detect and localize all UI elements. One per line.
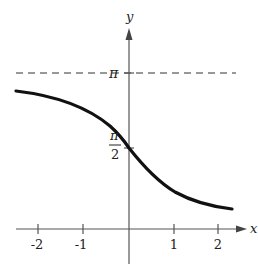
x-tick-labels: -2 -1 1 2	[31, 237, 222, 252]
graph: y x π π 2 -2 -1 1 2	[0, 0, 258, 264]
pi-half-denominator: 2	[111, 147, 119, 162]
function-curve	[16, 91, 232, 209]
y-axis-label: y	[125, 9, 134, 24]
pi-half-numerator: π	[109, 128, 119, 143]
svg-text:-1: -1	[75, 237, 88, 252]
x-axis-arrow-icon	[236, 226, 247, 233]
x-axis-label: x	[250, 221, 258, 236]
y-axis-arrow-icon	[126, 28, 133, 40]
asymptote-pi-label: π	[108, 65, 119, 81]
svg-text:-2: -2	[31, 237, 44, 252]
svg-text:2: 2	[214, 237, 222, 252]
svg-text:1: 1	[170, 237, 178, 252]
